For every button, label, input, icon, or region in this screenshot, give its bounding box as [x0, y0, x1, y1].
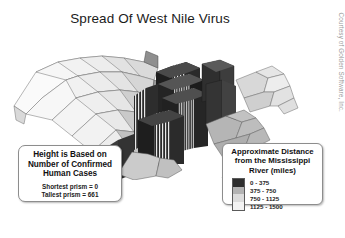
- attribution-label: Courtesy of Golden Software, Inc.: [338, 13, 345, 112]
- legend-height-line2: Number of Confirmed: [22, 160, 118, 170]
- legend-distance-scale: 0 - 375 375 - 750 750 - 1125 1125 - 1500: [227, 178, 318, 211]
- legend-prism-height: Height is Based on Number of Confirmed H…: [18, 145, 122, 202]
- legend-bin-label: 1125 - 1500: [250, 203, 283, 210]
- legend-distance-line2: from the Mississippi: [227, 156, 318, 165]
- legend-distance: Approximate Distance from the Mississipp…: [222, 143, 323, 205]
- legend-bin-labels: 0 - 375 375 - 750 750 - 1125 1125 - 1500: [250, 178, 283, 211]
- legend-height-line1: Height is Based on: [22, 150, 118, 160]
- legend-height-note1: Shortest prism = 0: [22, 183, 118, 191]
- legend-height-line3: Human Cases: [22, 169, 118, 179]
- legend-distance-line1: Approximate Distance: [227, 147, 318, 156]
- map-region-northeast: [236, 66, 298, 114]
- legend-bin-label: 375 - 750: [250, 187, 283, 194]
- legend-bin-label: 750 - 1125: [250, 195, 283, 202]
- legend-height-note2: Tallest prism = 661: [22, 191, 118, 199]
- attribution-text: Courtesy of Golden Software, Inc.: [338, 13, 345, 112]
- legend-color-ramp: [232, 178, 245, 211]
- page-title: Spread Of West Nile Virus: [0, 11, 300, 26]
- legend-distance-line3: River (miles): [227, 166, 318, 175]
- legend-bin-label: 0 - 375: [250, 179, 283, 186]
